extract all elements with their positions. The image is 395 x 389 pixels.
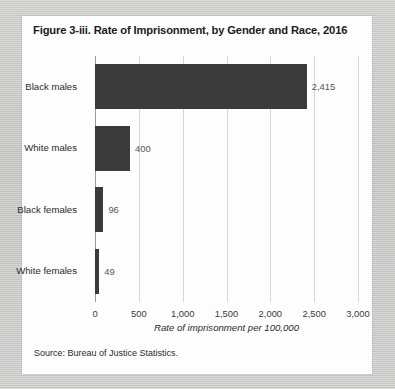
bar-value-label: 49 bbox=[104, 266, 114, 277]
bar-white-females bbox=[95, 249, 99, 294]
x-tick-label: 2,500 bbox=[302, 308, 325, 319]
bar-value-label: 96 bbox=[108, 204, 118, 215]
category-label: White males bbox=[0, 142, 77, 153]
x-tick-label: 1,500 bbox=[215, 308, 238, 319]
bar-row: 49 bbox=[95, 249, 358, 294]
category-label: Black males bbox=[0, 81, 77, 92]
bar-row: 96 bbox=[95, 187, 358, 232]
x-tick-label: 0 bbox=[92, 308, 97, 319]
bar-black-males bbox=[95, 64, 307, 109]
bar-chart: 2,415Black males400White males96Black fe… bbox=[22, 16, 372, 374]
x-tick-label: 500 bbox=[131, 308, 147, 319]
plot-area: 2,415Black males400White males96Black fe… bbox=[95, 56, 358, 302]
source-note: Source: Bureau of Justice Statistics. bbox=[34, 348, 178, 358]
figure-card: Figure 3-iii. Rate of Imprisonment, by G… bbox=[22, 16, 372, 374]
category-label: Black females bbox=[0, 204, 77, 215]
bar-black-females bbox=[95, 187, 103, 232]
gridline bbox=[358, 56, 359, 302]
bar-value-label: 400 bbox=[135, 143, 151, 154]
bar-row: 2,415 bbox=[95, 64, 358, 109]
x-tick-label: 1,000 bbox=[171, 308, 194, 319]
x-tick-label: 2,000 bbox=[259, 308, 282, 319]
bar-white-males bbox=[95, 126, 130, 171]
x-axis-title: Rate of imprisonment per 100,000 bbox=[95, 322, 358, 333]
category-label: White females bbox=[0, 265, 77, 276]
bar-row: 400 bbox=[95, 126, 358, 171]
x-tick-label: 3,000 bbox=[346, 308, 369, 319]
bar-value-label: 2,415 bbox=[312, 81, 335, 92]
